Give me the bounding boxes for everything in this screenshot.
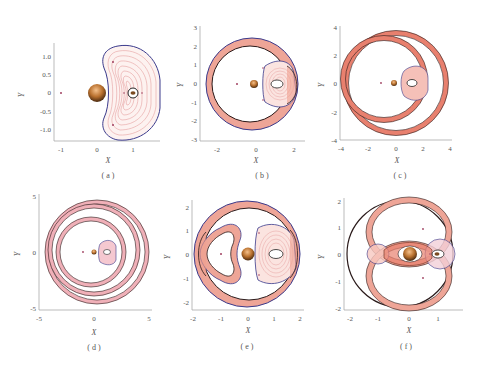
x-tick: 1 — [272, 315, 276, 323]
x-tick: 4 — [448, 145, 452, 153]
panel-caption: ( d ) — [87, 343, 101, 352]
panel-a: -1 0 1 1.0 0.5 0 -0.5 -1.0 X Y ( a ) — [17, 43, 160, 180]
y-tick: 4 — [334, 24, 338, 32]
x-tick: 5 — [147, 315, 151, 323]
y-tick: 1.0 — [42, 53, 51, 61]
y-tick: -1 — [191, 99, 197, 107]
x-tick: 0 — [254, 146, 258, 154]
x-tick: -2 — [214, 146, 220, 154]
x-tick: -4 — [338, 145, 344, 153]
x-axis-label: X — [105, 156, 112, 165]
y-axis-label: Y — [17, 91, 26, 97]
x-axis-label: X — [253, 156, 260, 165]
panel-c: -4 -2 0 2 4 4 2 0 -2 -4 X Y ( c ) — [317, 24, 452, 180]
y-tick: -2 — [191, 117, 197, 125]
y-tick: 0 — [194, 80, 198, 88]
panel-caption: ( a ) — [102, 171, 115, 180]
y-tick: -1 — [335, 278, 341, 286]
x-tick: 1 — [131, 146, 135, 154]
x-tick: -2 — [190, 315, 196, 323]
panel-d: -5 0 5 5 0 -5 X Y ( d ) — [13, 193, 152, 352]
y-axis-label: Y — [317, 81, 326, 87]
x-tick: -1 — [58, 146, 64, 154]
y-axis-label: Y — [13, 250, 22, 256]
x-tick: 0 — [394, 145, 398, 153]
y-tick: 0 — [186, 251, 190, 259]
x-tick: -1 — [218, 315, 224, 323]
primary-body — [250, 80, 258, 88]
y-tick: -2 — [331, 109, 337, 117]
y-axis-label: Y — [317, 253, 326, 259]
y-tick: 2 — [194, 43, 198, 51]
x-axis-label: X — [394, 156, 401, 165]
y-tick: 1 — [338, 224, 342, 232]
primary-body — [242, 248, 255, 261]
primary-body — [88, 84, 106, 102]
y-tick: -1.0 — [40, 126, 52, 134]
y-tick: -1 — [183, 275, 189, 283]
y-tick: -2 — [335, 305, 341, 313]
x-tick: 2 — [298, 315, 302, 323]
primary-body — [92, 250, 97, 255]
x-tick: 0 — [246, 315, 250, 323]
x-tick: -2 — [347, 315, 353, 323]
y-tick: 0 — [33, 249, 37, 257]
panel-caption: ( c ) — [394, 171, 407, 180]
x-tick: 0 — [92, 315, 96, 323]
x-tick: 2 — [421, 145, 425, 153]
y-tick: 0 — [338, 251, 342, 259]
primary-body — [391, 80, 397, 86]
y-tick: -2 — [183, 299, 189, 307]
y-tick: -4 — [331, 137, 337, 145]
secondary-body — [131, 91, 136, 95]
y-tick: -5 — [30, 305, 36, 313]
y-axis-label: Y — [163, 253, 172, 259]
y-tick: 1 — [194, 61, 198, 69]
y-tick: 0.5 — [42, 71, 51, 79]
x-tick: 1 — [436, 315, 440, 323]
x-tick: 0 — [95, 146, 99, 154]
panel-caption: ( b ) — [255, 171, 269, 180]
x-axis-label: X — [245, 326, 252, 335]
panel-caption: ( e ) — [241, 342, 254, 351]
x-tick: -1 — [375, 315, 381, 323]
panel-e: -2 -1 0 1 2 2 1 0 -1 -2 X Y ( e ) — [163, 200, 304, 351]
y-tick: -0.5 — [40, 108, 52, 116]
y-tick: 2 — [334, 52, 338, 60]
y-tick: 2 — [338, 198, 342, 206]
x-tick: -2 — [365, 145, 371, 153]
y-tick: -3 — [191, 136, 197, 144]
y-tick: 1 — [186, 227, 190, 235]
y-tick: 3 — [194, 24, 198, 32]
panel-caption: ( f ) — [400, 342, 412, 351]
x-tick: -5 — [36, 315, 42, 323]
x-axis-label: X — [91, 328, 98, 337]
y-tick: 5 — [33, 193, 37, 201]
y-tick: 2 — [186, 204, 190, 212]
primary-body — [403, 247, 417, 261]
x-tick: 0 — [407, 315, 411, 323]
x-axis-label: X — [406, 326, 413, 335]
x-tick: 2 — [292, 146, 296, 154]
panel-b: -2 0 2 3 2 1 0 -1 -2 -3 X Y ( b ) — [176, 24, 305, 180]
y-axis-label: Y — [176, 81, 185, 87]
y-tick: 0 — [48, 89, 52, 97]
panel-f: -2 -1 0 1 2 1 0 -1 -2 X Y ( f ) — [317, 197, 463, 351]
figure: -1 0 1 1.0 0.5 0 -0.5 -1.0 X Y ( a ) — [0, 0, 480, 372]
y-tick: 0 — [334, 80, 338, 88]
